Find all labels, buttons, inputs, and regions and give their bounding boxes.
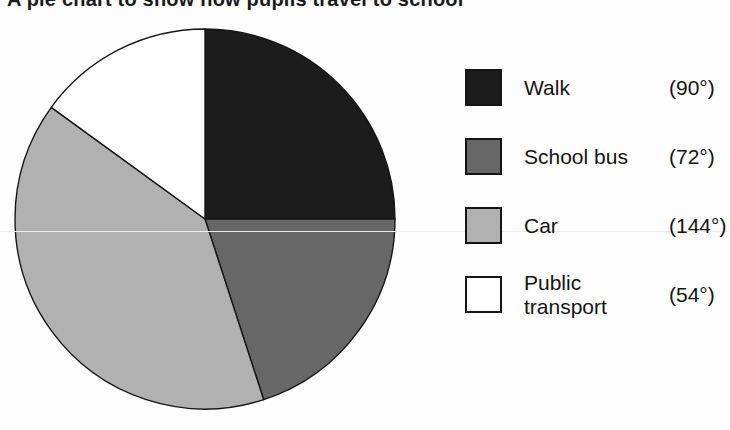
legend-swatch-car bbox=[465, 207, 502, 244]
pie-chart-svg bbox=[10, 24, 400, 414]
legend-degrees-school-bus: (72°) bbox=[669, 145, 715, 169]
legend-row-school-bus: School bus (72°) bbox=[465, 138, 726, 175]
legend-label-walk: Walk bbox=[524, 76, 669, 100]
legend: Walk (90°) School bus (72°) Car (144°) P… bbox=[465, 69, 726, 313]
legend-degrees-public-transport: (54°) bbox=[669, 283, 715, 307]
legend-label-school-bus: School bus bbox=[524, 145, 669, 169]
page: { "title": "A pie chart to show how pupi… bbox=[0, 0, 730, 430]
legend-row-car: Car (144°) bbox=[465, 207, 726, 244]
pie-wedge-walk bbox=[205, 29, 395, 219]
legend-label-public-transport: Public transport bbox=[524, 271, 669, 319]
legend-degrees-car: (144°) bbox=[669, 214, 726, 238]
page-title: A pie chart to show how pupils travel to… bbox=[7, 0, 463, 11]
legend-swatch-public-transport bbox=[465, 276, 502, 313]
pie-chart bbox=[10, 24, 400, 414]
legend-degrees-walk: (90°) bbox=[669, 76, 715, 100]
legend-swatch-school-bus bbox=[465, 138, 502, 175]
legend-swatch-walk bbox=[465, 69, 502, 106]
legend-row-walk: Walk (90°) bbox=[465, 69, 726, 106]
legend-row-public-transport: Public transport (54°) bbox=[465, 276, 726, 313]
legend-label-car: Car bbox=[524, 214, 669, 238]
